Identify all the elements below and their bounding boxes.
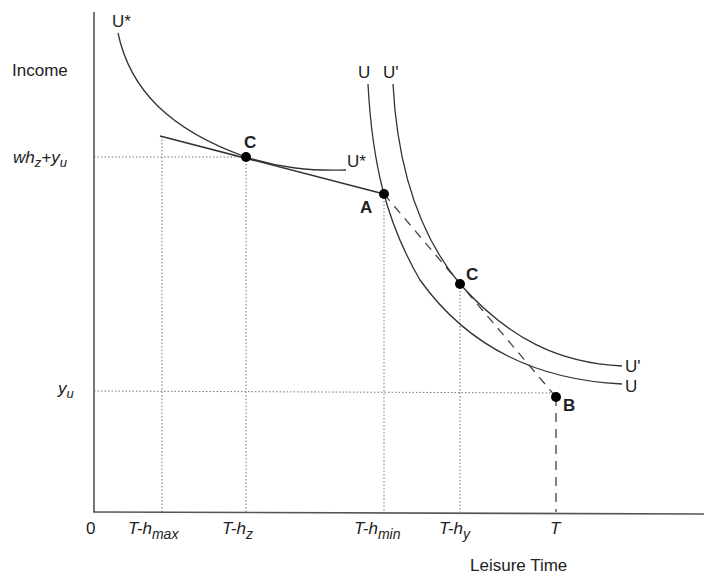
label-c-right: C <box>466 265 478 284</box>
guide-lines <box>94 136 556 512</box>
x-tick-t-hz: T-hz <box>222 519 253 542</box>
labor-supply-diagram: C A C B U* U* U U' U' U Income Leisure T… <box>0 0 712 587</box>
point-b <box>551 392 561 402</box>
point-c-right <box>455 279 465 289</box>
x-tick-t-hy: T-hy <box>439 519 471 542</box>
point-c-left <box>241 152 251 162</box>
label-u-star-top: U* <box>112 12 131 31</box>
label-u-prime-top: U' <box>383 63 399 82</box>
x-tick-t-hmin: T-hmin <box>354 519 401 542</box>
x-axis-label: Leisure Time <box>470 556 567 575</box>
label-u-star-bottom: U* <box>347 152 366 171</box>
point-a <box>379 189 389 199</box>
label-c-left: C <box>244 133 256 152</box>
x-tick-t: T <box>550 519 562 538</box>
y-tick-whz-yu: whz+yu <box>13 148 67 170</box>
label-u-top: U <box>358 63 370 82</box>
label-u-right: U <box>625 377 637 396</box>
indifference-curve-u-prime <box>393 84 622 366</box>
y-tick-yu: yu <box>57 379 74 401</box>
y-axis-label: Income <box>12 61 68 80</box>
origin-label: 0 <box>86 519 95 538</box>
label-u-prime-right: U' <box>625 357 641 376</box>
indifference-curve-u <box>368 84 622 384</box>
label-a: A <box>360 198 372 217</box>
x-tick-t-hmax: T-hmax <box>128 519 179 542</box>
x-axis <box>93 512 704 514</box>
label-b: B <box>563 396 575 415</box>
indifference-curve-u-star <box>118 33 346 170</box>
budget-dashed <box>384 194 556 512</box>
